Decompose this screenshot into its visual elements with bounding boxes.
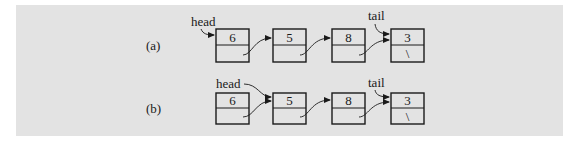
- node-next: \: [406, 46, 410, 61]
- node-next: \: [406, 109, 410, 124]
- tail-label: tail: [368, 75, 385, 90]
- row-label: (a): [146, 38, 160, 53]
- node-box: 8: [332, 29, 365, 62]
- head-label: head: [191, 14, 216, 29]
- linked-list-diagram: (a) head tail 6 5 8 3 \: [0, 0, 584, 145]
- node-box: 5: [273, 29, 306, 62]
- node-value: 3: [404, 93, 411, 108]
- head-pointer-arrow: [201, 29, 214, 35]
- node-value: 5: [286, 30, 293, 45]
- tail-label: tail: [368, 8, 385, 23]
- node-box: 3 \: [391, 93, 424, 124]
- node-value: 6: [229, 93, 236, 108]
- node-box: 6: [216, 29, 249, 62]
- node-value: 6: [229, 30, 236, 45]
- row-label: (b): [146, 101, 161, 116]
- tail-pointer-arrow: [375, 90, 389, 97]
- head-label: head: [216, 76, 241, 91]
- node-box: 3 \: [391, 29, 424, 62]
- node-box: 8: [332, 93, 365, 124]
- node-value: 3: [404, 30, 411, 45]
- node-box: 6: [216, 93, 249, 124]
- node-box: 5: [273, 93, 306, 124]
- row-a: (a) head tail 6 5 8 3 \: [146, 8, 424, 62]
- node-value: 8: [345, 93, 352, 108]
- row-b: (b) head tail 6 5 8 3 \: [146, 75, 424, 124]
- tail-pointer-arrow: [375, 24, 389, 34]
- node-value: 8: [345, 30, 352, 45]
- node-value: 5: [286, 93, 293, 108]
